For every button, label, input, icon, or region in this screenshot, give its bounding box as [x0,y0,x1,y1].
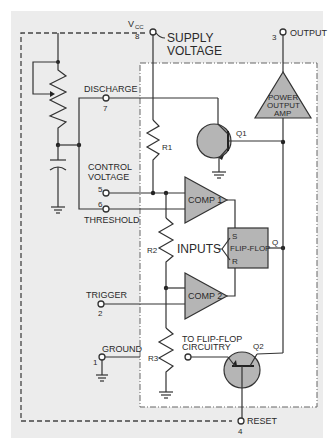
svg-text:6: 6 [98,200,103,209]
svg-text:Q: Q [272,238,278,247]
svg-text:R3: R3 [148,354,159,363]
svg-text:R2: R2 [147,246,158,255]
svg-text:1: 1 [93,358,98,367]
svg-text:7: 7 [103,104,108,113]
svg-text:3: 3 [272,33,277,42]
svg-text:OUTPUT: OUTPUT [290,28,328,38]
svg-text:DISCHARGE: DISCHARGE [84,84,138,94]
svg-text:8: 8 [135,32,140,41]
svg-text:FLIP-FLOP: FLIP-FLOP [230,244,270,253]
svg-text:SUPPLY: SUPPLY [167,31,213,45]
timer-555-diagram: V CC 8 SUPPLY VOLTAGE 3 OUTPUT DISCHARGE… [0,0,331,446]
svg-text:VOLTAGE: VOLTAGE [167,44,222,58]
svg-text:TRIGGER: TRIGGER [86,290,128,300]
svg-text:R1: R1 [162,143,173,152]
svg-text:Q1: Q1 [236,129,247,138]
svg-text:CONTROL: CONTROL [88,162,132,172]
svg-text:4: 4 [238,427,243,436]
svg-text:COMP 2: COMP 2 [188,291,222,301]
svg-text:GROUND: GROUND [102,344,142,354]
svg-text:INPUTS: INPUTS [177,242,221,256]
svg-text:AMP: AMP [274,109,291,118]
svg-text:THRESHOLD: THRESHOLD [84,215,140,225]
svg-text:S: S [232,232,237,241]
svg-text:VOLTAGE: VOLTAGE [88,172,129,182]
svg-text:RESET: RESET [247,416,278,426]
svg-text:Q2: Q2 [253,342,264,351]
svg-text:COMP 1: COMP 1 [188,195,222,205]
svg-text:CIRCUITRY: CIRCUITRY [182,342,231,352]
svg-text:CC: CC [135,24,144,30]
svg-text:2: 2 [98,309,103,318]
svg-text:5: 5 [98,185,103,194]
svg-text:R: R [232,257,238,266]
svg-text:V: V [128,19,134,29]
